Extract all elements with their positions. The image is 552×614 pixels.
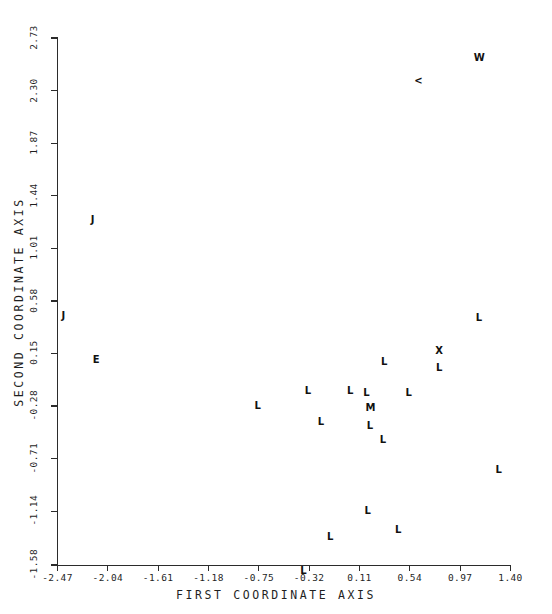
y-axis-ticklabel: 0.15 bbox=[28, 338, 39, 368]
x-axis-ticklabel: -1.18 bbox=[193, 572, 224, 583]
y-axis-tick bbox=[51, 248, 58, 249]
x-axis-ticklabel: 0.54 bbox=[398, 572, 422, 583]
y-axis-tick bbox=[51, 353, 58, 354]
data-point-marker: L bbox=[327, 532, 333, 542]
y-axis-ticklabel: -0.71 bbox=[28, 443, 39, 473]
y-axis-tick bbox=[51, 143, 58, 144]
y-axis-tick bbox=[51, 300, 58, 301]
data-point-marker: L bbox=[381, 357, 387, 367]
y-axis-tick bbox=[51, 458, 58, 459]
x-axis-tick bbox=[359, 565, 360, 571]
data-point-marker: L bbox=[300, 566, 306, 576]
x-axis-tick bbox=[158, 565, 159, 571]
data-point-marker: L bbox=[405, 388, 411, 398]
data-point-marker: J bbox=[61, 311, 65, 321]
y-axis-tick bbox=[51, 195, 58, 196]
x-axis-title: FIRST COORDINATE AXIS bbox=[176, 588, 376, 602]
x-axis-ticklabel: 1.40 bbox=[498, 572, 522, 583]
y-axis-ticklabel: 2.73 bbox=[28, 23, 39, 53]
x-axis-tick bbox=[208, 565, 209, 571]
x-axis-line bbox=[57, 565, 511, 566]
data-point-marker: L bbox=[476, 313, 482, 323]
data-point-marker: J bbox=[91, 215, 95, 225]
y-axis-tick bbox=[51, 37, 58, 38]
x-axis-ticklabel: -0.32 bbox=[294, 572, 325, 583]
y-axis-tick bbox=[51, 90, 58, 91]
y-axis-ticklabel: 2.30 bbox=[28, 75, 39, 105]
y-axis-ticklabel: 0.58 bbox=[28, 285, 39, 315]
data-point-marker: L bbox=[318, 417, 324, 427]
y-axis-ticklabel: -0.28 bbox=[28, 391, 39, 421]
data-point-marker: L bbox=[380, 435, 386, 445]
data-point-marker: X bbox=[435, 346, 443, 356]
y-axis-ticklabel: -1.58 bbox=[28, 550, 39, 580]
data-point-marker: L bbox=[254, 401, 260, 411]
y-axis-ticklabel: 1.87 bbox=[28, 128, 39, 158]
y-axis-tick bbox=[51, 511, 58, 512]
data-point-marker: L bbox=[363, 388, 369, 398]
y-axis-title: SECOND COORDINATE AXIS bbox=[12, 197, 26, 407]
y-axis-ticklabel: 1.44 bbox=[28, 180, 39, 210]
x-axis-tick bbox=[258, 565, 259, 571]
x-axis-tick bbox=[460, 565, 461, 571]
data-point-marker: < bbox=[414, 76, 419, 86]
x-axis-tick bbox=[107, 565, 108, 571]
data-point-marker: L bbox=[496, 465, 502, 475]
y-axis-line bbox=[57, 38, 58, 566]
x-axis-tick bbox=[510, 565, 511, 571]
data-point-marker: L bbox=[367, 421, 373, 431]
x-axis-tick bbox=[309, 565, 310, 571]
x-axis-tick bbox=[409, 565, 410, 571]
x-axis-ticklabel: 0.97 bbox=[448, 572, 472, 583]
y-axis-tick bbox=[51, 405, 58, 406]
data-point-marker: W bbox=[474, 53, 482, 63]
x-axis-tick bbox=[57, 565, 58, 571]
data-point-marker: L bbox=[347, 386, 353, 396]
x-axis-ticklabel: -0.75 bbox=[244, 572, 275, 583]
y-axis-ticklabel: -1.14 bbox=[28, 496, 39, 526]
x-axis-ticklabel: 0.11 bbox=[347, 572, 371, 583]
y-axis-ticklabel: 1.01 bbox=[28, 233, 39, 263]
x-axis-ticklabel: -2.04 bbox=[93, 572, 124, 583]
x-axis-ticklabel: -1.61 bbox=[143, 572, 174, 583]
scatter-plot-figure: 2.732.301.871.441.010.580.15-0.28-0.71-1… bbox=[0, 0, 552, 614]
data-point-marker: L bbox=[436, 363, 442, 373]
data-point-marker: L bbox=[365, 506, 371, 516]
data-point-marker: E bbox=[93, 355, 100, 365]
x-axis-ticklabel: -2.47 bbox=[42, 572, 73, 583]
data-point-marker: L bbox=[395, 525, 401, 535]
data-point-marker: L bbox=[305, 386, 311, 396]
data-point-marker: M bbox=[365, 403, 372, 413]
